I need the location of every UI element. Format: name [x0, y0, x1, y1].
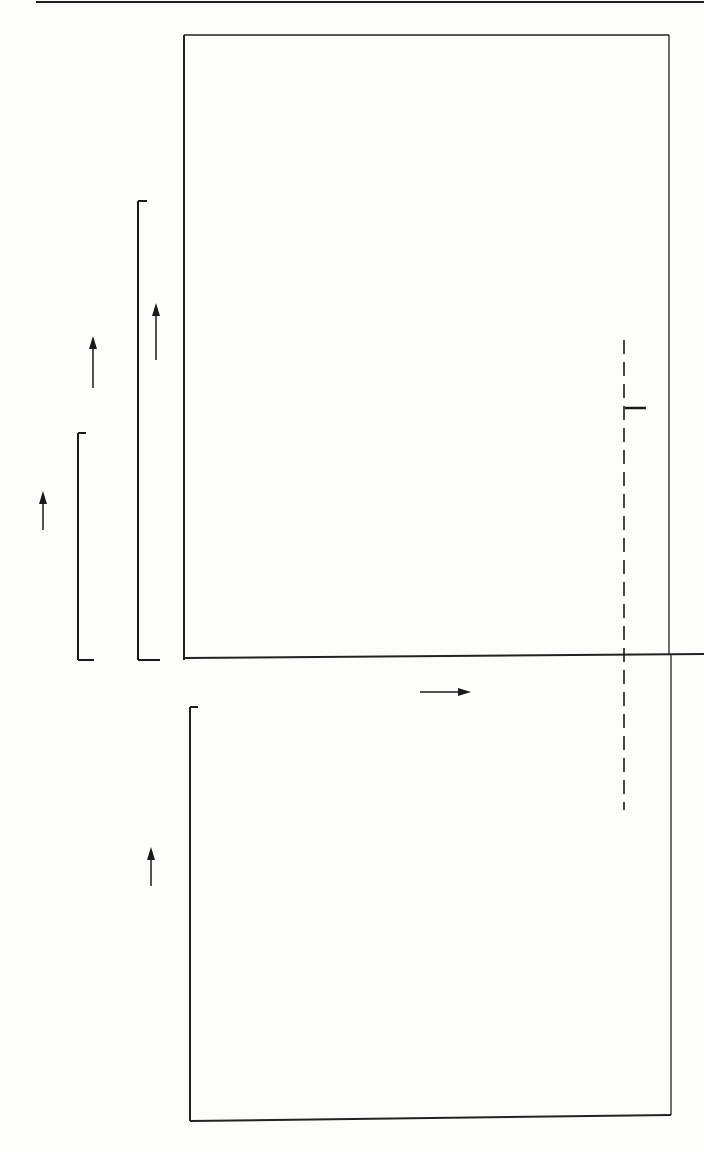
- w-axis-arrow: [89, 336, 97, 388]
- pk-axis: [78, 433, 94, 660]
- h-axis-arrow: [152, 303, 160, 360]
- bottom-chart-frame: [190, 655, 671, 1121]
- top-chart-frame: [184, 35, 704, 660]
- eta-axis-arrow: [147, 847, 155, 886]
- w-prime-axis: [138, 201, 160, 660]
- pk-axis-arrow: [39, 491, 47, 530]
- pump-characteristics-chart: [0, 0, 704, 1152]
- x-axis-name: [420, 688, 471, 696]
